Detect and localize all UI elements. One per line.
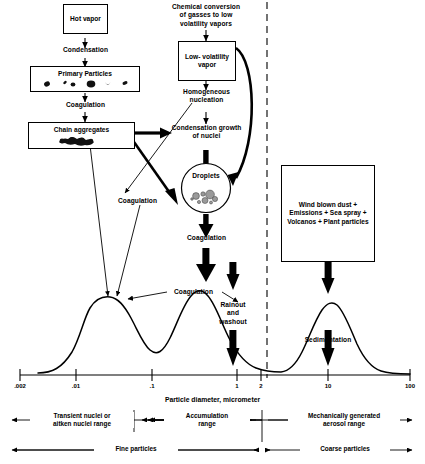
arrow-growth-to-droplets bbox=[203, 150, 208, 164]
label-coagulation-1: Coagulation bbox=[48, 101, 123, 109]
box-natural-sources-label: Wind blown dust + Emissions + Sea spray … bbox=[282, 201, 374, 227]
chain-aggregate-glyph bbox=[29, 134, 136, 146]
tick-label-6: 100 bbox=[398, 383, 422, 390]
range-label-accumulation: Accumulation range bbox=[164, 412, 250, 428]
box-primary-particles-label: Primary Particles bbox=[31, 70, 139, 78]
range-label-fine-particles: Fine particles bbox=[94, 445, 178, 453]
label-homogeneous-nucleation: Homogeneous nucleation bbox=[164, 88, 249, 105]
box-low-volatility-vapor: Low- volatility vapor bbox=[178, 41, 236, 81]
aerosol-size-distribution-figure: Hot vapor Primary Particles Chain aggreg… bbox=[0, 0, 425, 464]
range-label-mechanically-generated: Mechanically generated aerosol range bbox=[288, 412, 400, 428]
label-rainout-washout: Rainout and washout bbox=[205, 301, 261, 326]
label-coagulation-3: Coagulation bbox=[169, 234, 244, 242]
box-natural-sources: Wind blown dust + Emissions + Sea spray … bbox=[281, 165, 375, 262]
arrow-chain-to-peak1 bbox=[90, 145, 108, 296]
tick-label-1: .01 bbox=[64, 383, 88, 390]
box-hot-vapor-label: Hot vapor bbox=[70, 15, 101, 23]
label-coagulation-2: Coagulation bbox=[100, 197, 175, 205]
droplets-circle bbox=[182, 164, 231, 213]
tick-label-5: 10 bbox=[316, 383, 340, 390]
droplets-label: Droplets bbox=[181, 172, 231, 180]
arrow-coagulation-to-accumulation-head bbox=[196, 264, 216, 282]
label-chemical-conversion: Chemical conversion of gasses to low vol… bbox=[149, 3, 263, 28]
label-coagulation-4: Coagulation bbox=[156, 288, 231, 296]
box-chain-aggregates-label: Chain aggregates bbox=[29, 126, 134, 134]
label-sedimentation: Sedimentation bbox=[292, 336, 364, 344]
arrow-lvvapor-curve-to-droplets bbox=[236, 48, 252, 178]
box-primary-particles: Primary Particles bbox=[30, 66, 140, 92]
tick-label-4: 2 bbox=[249, 383, 273, 390]
box-hot-vapor: Hot vapor bbox=[63, 4, 108, 34]
tick-label-0: .002 bbox=[8, 383, 32, 390]
label-condensation-growth: Condensation growth of nuclei bbox=[148, 124, 265, 141]
x-axis-title: Particle diameter, micrometer bbox=[0, 396, 425, 403]
arrow-rainout-lower-head bbox=[227, 348, 240, 366]
range-label-coarse-particles: Coarse particles bbox=[300, 445, 390, 453]
arrow-sedimentation-head bbox=[322, 348, 335, 366]
label-condensation: Condensation bbox=[48, 46, 123, 54]
arrow-natural-sources-head bbox=[322, 278, 335, 294]
arrow-coagulation1-to-peak1 bbox=[117, 205, 140, 296]
tick-label-3: 1 bbox=[225, 383, 249, 390]
tick-label-2: .1 bbox=[140, 383, 164, 390]
primary-particle-glyphs bbox=[31, 78, 141, 90]
range-label-transient-nuclei: Transient nuclei or aitken nuclei range bbox=[30, 412, 134, 428]
arrow-chain-diagonal-to-coagulation bbox=[134, 142, 172, 196]
box-chain-aggregates: Chain aggregates bbox=[28, 122, 135, 149]
box-low-volatility-vapor-label: Low- volatility vapor bbox=[179, 53, 235, 70]
